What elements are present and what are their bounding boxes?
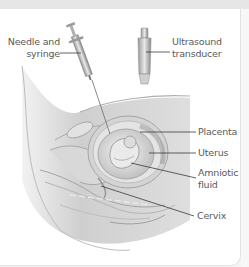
placenta-label: Placenta [198,126,237,138]
body-cross-section [22,66,190,250]
amniotic-label-line1: Amniotic [198,167,238,179]
needle-label-line2: syringe [6,48,60,60]
ultrasound-label-line2: transducer [172,48,222,60]
ultrasound-transducer-graphic [138,28,151,84]
ultrasound-label-line1: Ultrasound [172,36,222,48]
needle-syringe-label: Needle and syringe [6,36,60,60]
amniotic-fluid-label: Amniotic fluid [198,167,238,191]
uterus-label: Uterus [198,147,228,159]
ultrasound-transducer-label: Ultrasound transducer [172,36,222,60]
amniotic-label-line2: fluid [198,179,238,191]
cervix-label: Cervix [197,210,226,222]
needle-label-line1: Needle and [6,36,60,48]
